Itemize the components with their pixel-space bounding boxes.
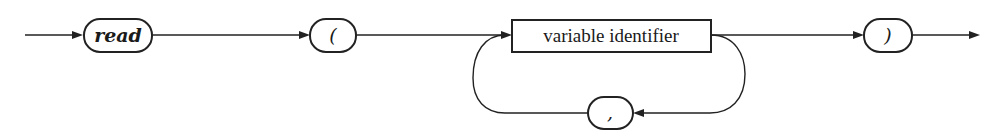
syntax-diagram: read ( variable identifier ,: [0, 0, 1002, 137]
edge-lparen-varid: [356, 31, 512, 39]
arrow-icon: [853, 31, 864, 39]
terminal-comma-label: ,: [607, 101, 613, 123]
terminal-rparen-label: ): [883, 24, 891, 46]
exit-edge: [912, 31, 980, 39]
terminal-rparen: ): [864, 19, 912, 52]
arrow-icon: [299, 31, 310, 39]
arrow-icon: [72, 31, 83, 39]
edge-read-lparen: [152, 31, 310, 39]
terminal-read-label: read: [94, 24, 142, 46]
terminal-lparen: (: [310, 19, 356, 52]
terminal-comma: ,: [588, 97, 633, 129]
nonterminal-variable-identifier-label: variable identifier: [543, 25, 679, 46]
arrow-icon: [969, 31, 980, 39]
entry-edge: [25, 31, 83, 39]
arrow-icon: [633, 109, 644, 117]
edge-varid-rparen: [711, 31, 864, 39]
terminal-lparen-label: (: [329, 24, 337, 46]
terminal-read: read: [84, 19, 152, 52]
nonterminal-variable-identifier: variable identifier: [512, 20, 711, 52]
